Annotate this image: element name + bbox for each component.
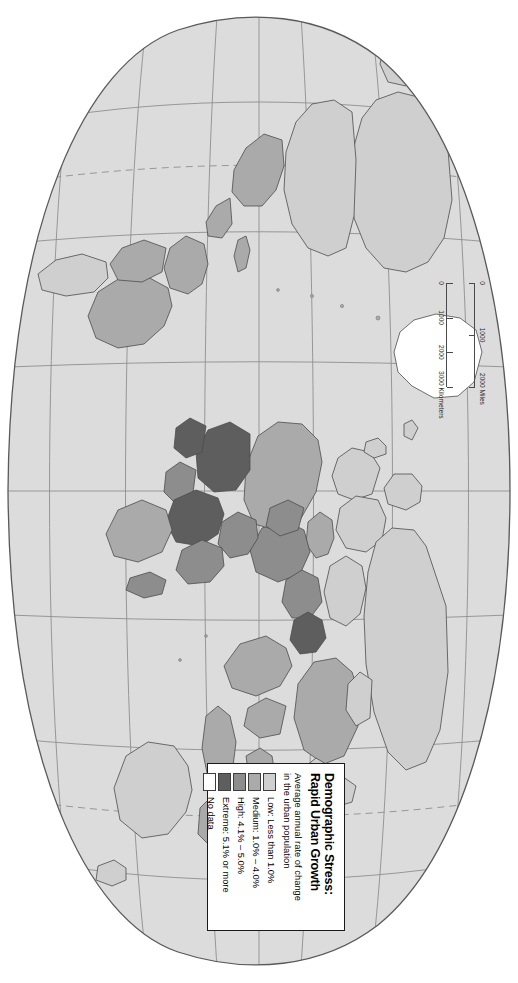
legend-label-medium: Medium: 1.0% – 4.0% xyxy=(251,797,261,888)
legend-swatch-low xyxy=(263,773,276,791)
legend-swatch-high xyxy=(233,773,246,791)
legend-item-low[interactable]: Low: Less than 1.0% xyxy=(263,773,276,921)
legend-label-extreme: Extreme: 5.1% or more xyxy=(221,797,231,893)
scale-bar-rotator: 0 1000 2000 Miles 0 1000 2000 3000 Kilom… xyxy=(433,283,495,415)
scale-km-unit: 3000 Kilometers xyxy=(438,371,445,419)
legend-items: Low: Less than 1.0% Medium: 1.0% – 4.0% … xyxy=(203,773,276,921)
legend-title-line1: Demographic Stress: xyxy=(322,773,336,921)
legend-item-nodata[interactable]: No data xyxy=(203,773,216,921)
region-canada[interactable] xyxy=(350,92,452,272)
scale-miles-tick-0: 0 xyxy=(479,281,486,285)
legend-subtitle: Average annual rate of change in the urb… xyxy=(282,773,305,921)
legend-subtitle-line1: Average annual rate of change xyxy=(293,773,304,921)
legend-title-line2: Rapid Urban Growth xyxy=(308,773,322,921)
legend-item-medium[interactable]: Medium: 1.0% – 4.0% xyxy=(248,773,261,921)
legend-swatch-nodata xyxy=(203,773,216,791)
legend-swatch-extreme xyxy=(218,773,231,791)
scale-bar: 0 1000 2000 Miles 0 1000 2000 3000 Kilom… xyxy=(435,283,495,413)
legend-item-high[interactable]: High: 4.1% – 5.0% xyxy=(233,773,246,921)
scale-miles-unit: 2000 Miles xyxy=(479,373,486,405)
legend-rotator: Demographic Stress: Rapid Urban Growth A… xyxy=(203,763,345,935)
legend-subtitle-line2: in the urban population xyxy=(282,773,293,921)
legend: Demographic Stress: Rapid Urban Growth A… xyxy=(207,763,345,931)
map-page: 0 1000 2000 Miles 0 1000 2000 3000 Kilom… xyxy=(0,0,518,983)
legend-label-low: Low: Less than 1.0% xyxy=(266,797,276,883)
legend-swatch-medium xyxy=(248,773,261,791)
scale-km-tick-0: 0 xyxy=(438,281,445,285)
legend-label-nodata: No data xyxy=(206,797,216,830)
legend-label-high: High: 4.1% – 5.0% xyxy=(236,797,246,874)
scale-miles-tick-1: 1000 xyxy=(479,328,486,343)
scale-km-tick-1: 1000 xyxy=(438,310,445,325)
legend-title: Demographic Stress: Rapid Urban Growth xyxy=(308,773,337,921)
scale-km-tick-2: 2000 xyxy=(438,345,445,360)
legend-item-extreme[interactable]: Extreme: 5.1% or more xyxy=(218,773,231,921)
